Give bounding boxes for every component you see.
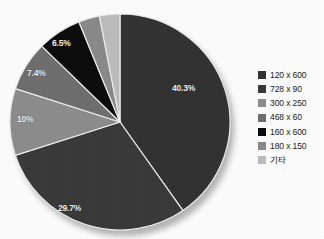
- legend-item[interactable]: 기타: [258, 153, 324, 167]
- legend-item-label: 728 x 90: [270, 85, 302, 94]
- pie-slice-percent-label: 10%: [17, 114, 33, 124]
- legend-item-label: 468 x 60: [270, 113, 302, 122]
- legend-color-swatch: [258, 156, 266, 164]
- legend-item[interactable]: 728 x 90: [258, 82, 324, 96]
- legend-color-swatch: [258, 142, 266, 150]
- legend-item-label: 기타: [270, 156, 286, 165]
- legend-item-label: 160 x 600: [270, 128, 306, 137]
- legend-color-swatch: [258, 99, 266, 107]
- pie-slice-percent-label: 40.3%: [172, 83, 195, 93]
- legend-item[interactable]: 468 x 60: [258, 111, 324, 125]
- legend-item[interactable]: 300 x 250: [258, 96, 324, 110]
- legend-item[interactable]: 160 x 600: [258, 125, 324, 139]
- pie-chart-plot-area: 40.3%29.7%10%7.4%6.5%: [0, 0, 250, 239]
- pie-chart-figure: 40.3%29.7%10%7.4%6.5% 120 x 600728 x 903…: [0, 0, 324, 239]
- pie-slice-percent-label: 6.5%: [52, 38, 71, 48]
- legend-color-swatch: [258, 114, 266, 122]
- legend-item-label: 180 x 150: [270, 142, 306, 151]
- legend-color-swatch: [258, 71, 266, 79]
- legend-item-label: 300 x 250: [270, 99, 306, 108]
- pie-chart-svg: [0, 0, 250, 239]
- pie-slice-group: [10, 14, 230, 230]
- legend-item-label: 120 x 600: [270, 71, 306, 80]
- legend-color-swatch: [258, 85, 266, 93]
- legend-color-swatch: [258, 128, 266, 136]
- pie-slice-percent-label: 7.4%: [27, 68, 46, 78]
- legend-item[interactable]: 120 x 600: [258, 68, 324, 82]
- pie-slice-percent-label: 29.7%: [58, 203, 81, 213]
- legend-item[interactable]: 180 x 150: [258, 139, 324, 153]
- chart-legend: 120 x 600728 x 90300 x 250468 x 60160 x …: [258, 68, 324, 167]
